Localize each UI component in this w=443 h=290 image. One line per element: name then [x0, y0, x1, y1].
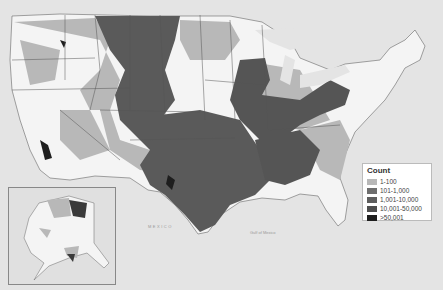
legend-item: 1,001-10,000	[367, 195, 427, 204]
choropleth-map: MEXICO Gulf of Mexico Count 1-100 101-1,…	[0, 0, 443, 290]
legend-item: >50,001	[367, 213, 427, 222]
alaska-inset	[8, 187, 116, 285]
gulf-label: Gulf of Mexico	[250, 230, 276, 235]
legend: Count 1-100 101-1,000 1,001-10,000 10,00…	[362, 163, 432, 221]
swatch-icon	[367, 206, 377, 212]
legend-item: 10,001-50,000	[367, 204, 427, 213]
swatch-icon	[367, 197, 377, 203]
alaska-canvas	[9, 188, 116, 285]
swatch-icon	[367, 215, 377, 221]
legend-item: 101-1,000	[367, 186, 427, 195]
mexico-label: MEXICO	[148, 224, 173, 229]
legend-title: Count	[367, 166, 427, 175]
swatch-icon	[367, 188, 377, 194]
legend-item: 1-100	[367, 177, 427, 186]
swatch-icon	[367, 179, 377, 185]
